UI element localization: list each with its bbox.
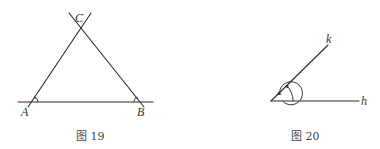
figure-19: A B C 图 19 (18, 11, 153, 143)
figure-20-caption: 图 20 (291, 130, 320, 143)
geometry-figures: A B C 图 19 k h 图 20 (0, 0, 380, 149)
line-bc (69, 13, 144, 107)
line-ac (28, 13, 91, 107)
ray-h-label: h (361, 94, 367, 108)
figure-20: k h 图 20 (271, 32, 367, 143)
ray-k-label: k (326, 32, 332, 46)
point-b-label: B (137, 105, 145, 119)
point-c-label: C (75, 11, 84, 25)
point-a-label: A (20, 105, 29, 119)
figure-19-caption: 图 19 (76, 130, 105, 143)
